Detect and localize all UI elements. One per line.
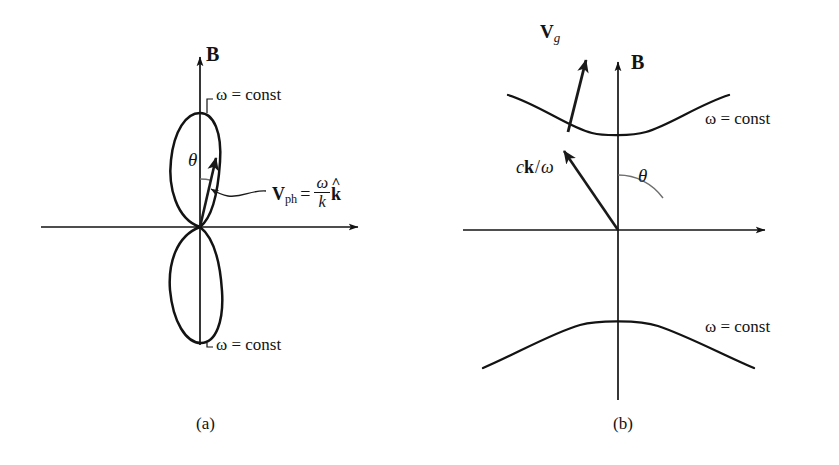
- panel-b-theta-label: θ: [638, 166, 647, 185]
- vph-subscript: ph: [285, 192, 297, 206]
- panel-a-theta-label: θ: [188, 150, 197, 169]
- vph-denominator-k: k: [314, 192, 330, 211]
- panel-a-omega-bottom-leader: [207, 343, 213, 347]
- vph-numerator-omega: ω: [314, 175, 330, 192]
- panel-b-omega-const-top: ω = const: [705, 110, 770, 127]
- ck-slash: /: [534, 157, 541, 177]
- figure-root: B ω = const ω = const θ Vph=ωkk (a) B ω …: [0, 0, 839, 465]
- ck-k-symbol: k: [524, 157, 534, 177]
- panel-b-omega-const-bottom: ω = const: [705, 318, 770, 335]
- panel-a-omega-top-leader: [207, 99, 213, 113]
- ck-omega-symbol: ω: [541, 157, 554, 177]
- panel-b-vg-label: Vg: [540, 22, 560, 45]
- panel-b-ckomega-label: ck/ω: [516, 158, 554, 176]
- vg-subscript: g: [554, 30, 560, 45]
- panel-a-lower-lobe: [170, 227, 223, 343]
- panel-a-axis-label-b: B: [206, 44, 219, 64]
- panel-b-axis-label-b: B: [631, 52, 644, 72]
- panel-b-caption: (b): [613, 415, 633, 432]
- diagram-canvas: [0, 0, 839, 465]
- vph-equals: =: [300, 184, 310, 204]
- vg-v-symbol: V: [540, 21, 554, 42]
- panel-a-caption: (a): [196, 415, 215, 432]
- vph-unit-vector-k-hat: k: [331, 184, 341, 203]
- vph-v-symbol: V: [272, 184, 285, 204]
- panel-a-omega-const-bottom: ω = const: [216, 336, 281, 353]
- panel-b-vg-vector: [568, 60, 586, 132]
- panel-a-vph-label: Vph=ωkk: [272, 175, 341, 210]
- panel-a-vph-leader: [211, 189, 266, 196]
- panel-b-ckomega-vector: [564, 151, 618, 230]
- ck-c-symbol: c: [516, 157, 524, 177]
- vph-fraction: ωk: [314, 175, 330, 210]
- panel-a-omega-const-top: ω = const: [216, 86, 281, 103]
